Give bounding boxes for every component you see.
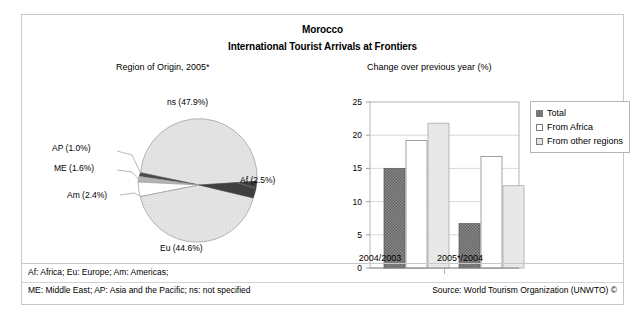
bar-2004-2003-from-other-regions (428, 123, 449, 268)
footnote-abbreviations-line-2: ME: Middle East; AP: Asia and the Pacifi… (28, 285, 251, 295)
bar-2004-2003-from-africa (406, 141, 427, 269)
figure-panel: Morocco International Tourist Arrivals a… (21, 14, 624, 305)
y-axis-tick-20: 20 (340, 130, 362, 140)
legend-label-from-africa: From Africa (547, 122, 593, 132)
footer-divider (22, 282, 623, 283)
pie-label-am: Am (2.4%) (67, 190, 107, 200)
chart-legend: Total From Africa From other regions (530, 101, 630, 153)
pie-leader-am (120, 193, 140, 196)
x-axis-category-2004-2003: 2004/2003 (340, 253, 420, 263)
bar-chart: 0 5 10 15 20 25 2004/2003 2005*/2004 Tot… (322, 75, 625, 275)
footnote-abbreviations-line-1: Af: Africa; Eu: Europe; Am: Americas; (28, 267, 168, 277)
legend-swatch-from-other-regions (536, 138, 543, 145)
bar-2005-2004-from-other-regions (503, 186, 524, 268)
pie-label-me: ME (1.6%) (54, 163, 94, 173)
pie-label-ap: AP (1.0%) (52, 143, 91, 153)
bar-2005-2004-from-africa (481, 156, 502, 268)
pie-leader-me (117, 170, 138, 179)
y-axis-tick-25: 25 (340, 97, 362, 107)
page-title: Morocco (22, 24, 623, 35)
pie-label-af: Af (2.5%) (240, 175, 275, 185)
pie-label-ns: ns (47.9%) (167, 97, 208, 107)
figure-footer: Af: Africa; Eu: Europe; Am: Americas; ME… (22, 263, 623, 304)
legend-item-from-africa: From Africa (536, 120, 623, 134)
pie-label-eu: Eu (44.6%) (160, 243, 203, 253)
legend-swatch-total (536, 110, 543, 117)
legend-item-total: Total (536, 106, 623, 120)
page-subtitle: International Tourist Arrivals at Fronti… (22, 41, 623, 52)
pie-chart-caption: Region of Origin, 2005* (116, 62, 210, 72)
bar-chart-caption: Change over previous year (%) (367, 62, 492, 72)
legend-swatch-from-africa (536, 124, 543, 131)
legend-label-total: Total (547, 108, 566, 118)
legend-item-from-other-regions: From other regions (536, 134, 623, 148)
source-attribution: Source: World Tourism Organization (UNWT… (432, 285, 617, 295)
y-axis-tick-15: 15 (340, 163, 362, 173)
x-axis-category-2005-2004: 2005*/2004 (420, 253, 500, 263)
pie-leader-ap (117, 151, 141, 173)
legend-label-from-other-regions: From other regions (547, 136, 623, 146)
y-axis-tick-10: 10 (340, 197, 362, 207)
pie-chart: ns (47.9%) Eu (44.6%) Af (2.5%) Am (2.4%… (22, 75, 322, 270)
y-axis-tick-5: 5 (340, 230, 362, 240)
